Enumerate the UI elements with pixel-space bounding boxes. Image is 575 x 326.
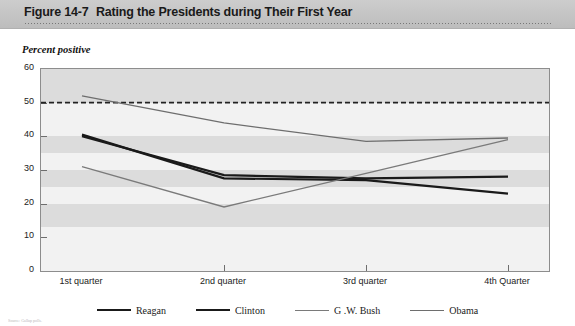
y-tick-label-0: 0 <box>8 264 34 274</box>
y-tick-label-60: 60 <box>8 62 34 72</box>
header-dotted-rule <box>24 22 551 25</box>
figure-header-bar: Figure 14-7 Rating the Presidents during… <box>0 0 575 29</box>
legend-item-obama[interactable]: Obama <box>410 305 478 316</box>
y-tick-label-20: 20 <box>8 197 34 207</box>
y-tick-label-30: 30 <box>8 163 34 173</box>
chart-series-layer <box>41 69 549 271</box>
figure-number-label: Figure 14-7 <box>24 5 89 19</box>
y-tick-label-50: 50 <box>8 96 34 106</box>
source-note: Source: Gallup polls. <box>8 318 428 324</box>
y-tick-label-40: 40 <box>8 129 34 139</box>
series-line-g-w-bush <box>82 140 508 207</box>
legend-label-clinton: Clinton <box>235 305 265 316</box>
y-axis-caption: Percent positive <box>22 44 91 55</box>
y-tick-label-10: 10 <box>8 230 34 240</box>
legend-line-swatch-clinton <box>196 309 230 311</box>
legend-line-swatch-reagan <box>97 309 131 311</box>
figure-title: Rating the Presidents during Their First… <box>96 5 352 19</box>
legend-label-g-w-bush: G .W. Bush <box>334 305 380 316</box>
x-tick-label-2: 2nd quarter <box>178 276 268 286</box>
legend-label-reagan: Reagan <box>136 305 166 316</box>
series-line-clinton <box>82 136 508 178</box>
legend-label-obama: Obama <box>449 305 478 316</box>
y-tick-0 <box>41 271 47 272</box>
legend-item-reagan[interactable]: Reagan <box>97 305 166 316</box>
x-tick-label-4: 4th Quarter <box>462 276 552 286</box>
legend-item-clinton[interactable]: Clinton <box>196 305 265 316</box>
legend-line-swatch-obama <box>410 310 444 311</box>
legend-item-g-w-bush[interactable]: G .W. Bush <box>295 305 380 316</box>
chart-legend: ReaganClintonG .W. BushObama <box>0 303 575 317</box>
chart-plot-area <box>40 68 550 272</box>
legend-line-swatch-g-w-bush <box>295 310 329 311</box>
x-tick-label-1: 1st quarter <box>36 276 126 286</box>
x-tick-label-3: 3rd quarter <box>320 276 410 286</box>
